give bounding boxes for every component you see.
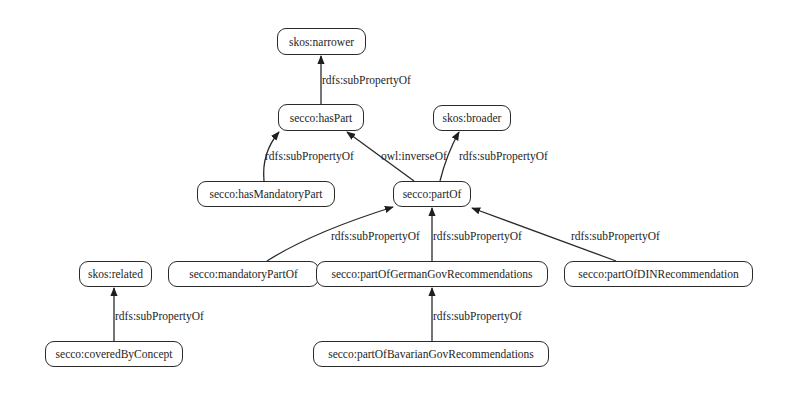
node-label: skos:broader <box>443 112 502 124</box>
node-label: secco:mandatoryPartOf <box>189 268 298 280</box>
node-secco-partOfDINRecommendation: secco:partOfDINRecommendation <box>564 261 753 287</box>
node-label: secco:partOfDINRecommendation <box>578 268 738 280</box>
edge-label-din-partOf: rdfs:subPropertyOf <box>571 230 660 242</box>
edge-label-partOf-hasPart: owl:inverseOf <box>381 150 447 162</box>
node-label: secco:partOf <box>403 188 462 200</box>
node-label: secco:partOfBavarianGovRecommendations <box>328 348 534 360</box>
edge-label-bavarian-germanGov: rdfs:subPropertyOf <box>433 310 522 322</box>
node-label: skos:narrower <box>289 36 354 48</box>
edge-label-hasMandatoryPart-hasPart: rdfs:subPropertyOf <box>265 150 354 162</box>
node-label: secco:partOfGermanGovRecommendations <box>331 268 532 280</box>
edge-label-partOf-broader: rdfs:subPropertyOf <box>459 150 548 162</box>
property-hierarchy-diagram: skos:narrower secco:hasPart skos:broader… <box>0 0 792 396</box>
node-skos-related: skos:related <box>79 261 152 287</box>
node-label: secco:hasMandatoryPart <box>209 188 322 200</box>
node-skos-broader: skos:broader <box>433 105 511 131</box>
node-skos-narrower: skos:narrower <box>277 28 366 55</box>
node-secco-coveredByConcept: secco:coveredByConcept <box>45 341 183 367</box>
node-label: skos:related <box>88 268 143 280</box>
node-secco-hasPart: secco:hasPart <box>278 104 364 131</box>
node-secco-partOfBavarianGovRecommendations: secco:partOfBavarianGovRecommendations <box>313 341 549 367</box>
node-secco-mandatoryPartOf: secco:mandatoryPartOf <box>168 261 319 287</box>
edge-label-coveredByConcept-related: rdfs:subPropertyOf <box>115 310 204 322</box>
node-secco-partOfGermanGovRecommendations: secco:partOfGermanGovRecommendations <box>316 261 548 287</box>
edge-label-germanGov-partOf: rdfs:subPropertyOf <box>433 230 522 242</box>
node-label: secco:hasPart <box>290 112 353 124</box>
edge-label-mandatoryPartOf-partOf: rdfs:subPropertyOf <box>331 230 420 242</box>
node-label: secco:coveredByConcept <box>56 348 173 360</box>
node-secco-hasMandatoryPart: secco:hasMandatoryPart <box>197 181 335 207</box>
node-secco-partOf: secco:partOf <box>393 181 471 207</box>
edge-label-hasPart-narrower: rdfs:subPropertyOf <box>322 74 411 86</box>
